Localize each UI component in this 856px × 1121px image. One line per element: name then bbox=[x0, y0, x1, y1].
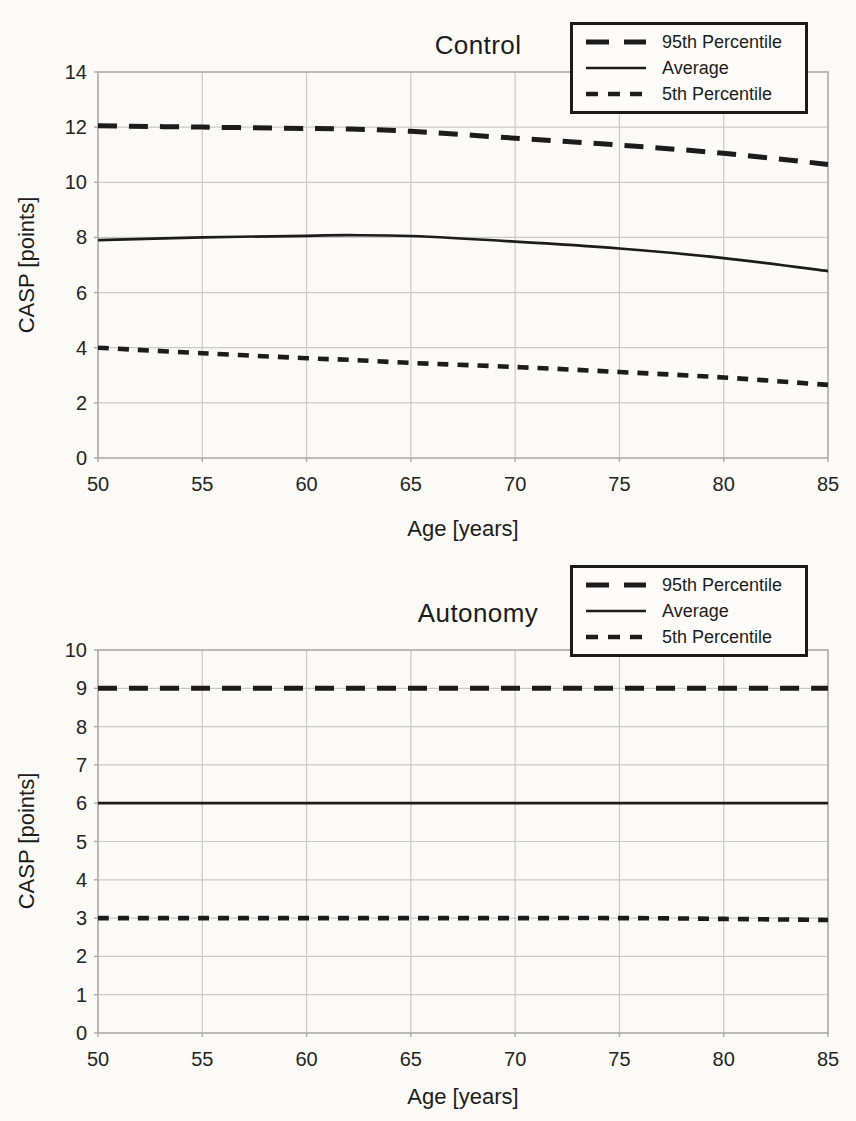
short-dash-line-icon bbox=[585, 89, 647, 99]
svg-text:3: 3 bbox=[76, 907, 87, 929]
svg-text:60: 60 bbox=[295, 473, 317, 495]
solid-line-icon bbox=[585, 63, 647, 73]
legend-item-95th-percentile: 95th Percentile bbox=[585, 576, 793, 594]
svg-text:65: 65 bbox=[400, 473, 422, 495]
legend-label-95th: 95th Percentile bbox=[662, 33, 782, 51]
legend-item-5th-percentile: 5th Percentile bbox=[585, 628, 793, 646]
legend-label-95th: 95th Percentile bbox=[662, 576, 782, 594]
legend-item-average: Average bbox=[585, 602, 793, 620]
svg-text:1: 1 bbox=[76, 984, 87, 1006]
long-dash-line-icon bbox=[585, 580, 647, 590]
svg-text:12: 12 bbox=[65, 116, 87, 138]
control-legend-box: 95th Percentile Average 5th Percentile bbox=[570, 22, 808, 114]
legend-label-average: Average bbox=[662, 602, 729, 620]
svg-text:2: 2 bbox=[76, 392, 87, 414]
svg-text:75: 75 bbox=[608, 473, 630, 495]
svg-text:75: 75 bbox=[608, 1048, 630, 1070]
scanned-chart-page: Control CASP [points] 505560657075808502… bbox=[0, 0, 856, 1121]
svg-text:85: 85 bbox=[817, 473, 839, 495]
svg-text:60: 60 bbox=[295, 1048, 317, 1070]
svg-text:80: 80 bbox=[713, 473, 735, 495]
legend-label-5th: 5th Percentile bbox=[662, 628, 772, 646]
svg-text:10: 10 bbox=[65, 639, 87, 661]
autonomy-legend-box: 95th Percentile Average 5th Percentile bbox=[570, 565, 808, 657]
svg-text:70: 70 bbox=[504, 473, 526, 495]
svg-text:65: 65 bbox=[400, 1048, 422, 1070]
svg-text:8: 8 bbox=[76, 226, 87, 248]
short-dash-line-icon bbox=[585, 632, 647, 642]
legend-label-5th: 5th Percentile bbox=[662, 85, 772, 103]
svg-text:6: 6 bbox=[76, 282, 87, 304]
svg-text:0: 0 bbox=[76, 447, 87, 469]
svg-text:4: 4 bbox=[76, 869, 87, 891]
legend-item-5th-percentile: 5th Percentile bbox=[585, 85, 793, 103]
legend-label-average: Average bbox=[662, 59, 729, 77]
svg-text:6: 6 bbox=[76, 792, 87, 814]
control-x-axis-label: Age [years] bbox=[98, 516, 828, 542]
solid-line-icon bbox=[585, 606, 647, 616]
svg-text:55: 55 bbox=[191, 473, 213, 495]
svg-text:14: 14 bbox=[65, 61, 87, 83]
long-dash-line-icon bbox=[585, 37, 647, 47]
svg-text:4: 4 bbox=[76, 337, 87, 359]
autonomy-x-axis-label: Age [years] bbox=[98, 1084, 828, 1110]
svg-text:2: 2 bbox=[76, 945, 87, 967]
legend-item-average: Average bbox=[585, 59, 793, 77]
legend-item-95th-percentile: 95th Percentile bbox=[585, 33, 793, 51]
svg-text:8: 8 bbox=[76, 716, 87, 738]
svg-text:50: 50 bbox=[87, 1048, 109, 1070]
svg-text:7: 7 bbox=[76, 754, 87, 776]
svg-text:0: 0 bbox=[76, 1022, 87, 1044]
svg-text:9: 9 bbox=[76, 677, 87, 699]
svg-text:85: 85 bbox=[817, 1048, 839, 1070]
svg-text:70: 70 bbox=[504, 1048, 526, 1070]
svg-text:10: 10 bbox=[65, 171, 87, 193]
svg-text:5: 5 bbox=[76, 831, 87, 853]
svg-text:80: 80 bbox=[713, 1048, 735, 1070]
svg-text:55: 55 bbox=[191, 1048, 213, 1070]
svg-text:50: 50 bbox=[87, 473, 109, 495]
